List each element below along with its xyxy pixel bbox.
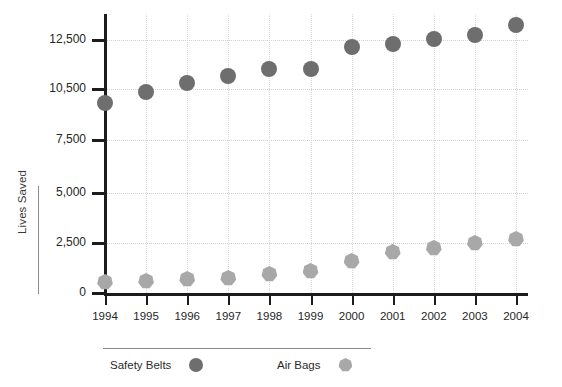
data-point-safety-belts-2004[interactable] (508, 17, 524, 33)
y-tick-mark (92, 192, 105, 195)
legend-item-safety-belts[interactable]: Safety Belts (110, 358, 203, 372)
y-tick-label: 7,500 (56, 132, 86, 146)
data-point-safety-belts-1997[interactable] (220, 68, 236, 84)
data-point-safety-belts-1994[interactable] (97, 95, 113, 111)
data-point-safety-belts-1998[interactable] (261, 61, 277, 77)
data-point-air-bags-1999[interactable] (303, 263, 319, 279)
gridline-x-1998 (269, 14, 270, 293)
gridline-x-2003 (475, 14, 476, 293)
data-point-safety-belts-2003[interactable] (467, 27, 483, 43)
x-tick-mark (434, 296, 436, 305)
gridline-y-10500 (107, 89, 528, 90)
gridline-x-1995 (146, 14, 147, 293)
x-tick-label-1998: 1998 (246, 310, 292, 322)
data-point-air-bags-2001[interactable] (385, 244, 401, 260)
x-tick-mark (105, 296, 107, 305)
x-tick-label-2000: 2000 (329, 310, 375, 322)
x-tick-label-1995: 1995 (123, 310, 169, 322)
data-point-air-bags-1994[interactable] (97, 274, 113, 290)
gridline-x-1997 (228, 14, 229, 293)
y-axis-line (104, 14, 107, 295)
data-point-air-bags-2004[interactable] (508, 231, 524, 247)
x-tick-label-1997: 1997 (205, 310, 251, 322)
x-tick-label-1996: 1996 (164, 310, 210, 322)
data-point-safety-belts-1999[interactable] (303, 61, 319, 77)
x-tick-mark (352, 296, 354, 305)
y-tick-mark (92, 88, 105, 91)
gridline-y-2500 (107, 243, 528, 244)
gridline-x-2000 (352, 14, 353, 293)
y-axis-title-rule (38, 186, 39, 294)
y-tick-mark (92, 292, 105, 295)
gridline-x-1996 (187, 14, 188, 293)
y-tick-label: 5,000 (56, 185, 86, 199)
data-point-air-bags-1995[interactable] (138, 273, 154, 289)
data-point-safety-belts-1996[interactable] (179, 75, 195, 91)
legend-label: Air Bags (277, 359, 320, 371)
y-tick-mark (92, 242, 105, 245)
x-tick-label-2004: 2004 (493, 310, 539, 322)
x-tick-mark (475, 296, 477, 305)
data-point-air-bags-1998[interactable] (261, 266, 277, 282)
data-point-air-bags-2000[interactable] (344, 253, 360, 269)
y-tick-mark (92, 39, 105, 42)
x-tick-label-1999: 1999 (288, 310, 334, 322)
x-tick-mark (146, 296, 148, 305)
x-tick-mark (516, 296, 518, 305)
circle-marker-icon (189, 358, 203, 372)
data-point-air-bags-1996[interactable] (179, 271, 195, 287)
heptagon-marker-icon (338, 358, 352, 372)
data-point-safety-belts-2001[interactable] (385, 36, 401, 52)
y-axis-title: Lives Saved (16, 142, 28, 262)
y-tick-label: 12,500 (49, 32, 86, 46)
gridline-y-7500 (107, 140, 528, 141)
legend-label: Safety Belts (110, 359, 171, 371)
x-tick-mark (187, 296, 189, 305)
legend-item-air-bags[interactable]: Air Bags (277, 358, 352, 372)
x-tick-mark (269, 296, 271, 305)
x-tick-mark (393, 296, 395, 305)
y-tick-mark (92, 139, 105, 142)
y-tick-label: 0 (79, 285, 86, 299)
data-point-air-bags-1997[interactable] (220, 270, 236, 286)
y-tick-label: 2,500 (56, 235, 86, 249)
gridline-y-5000 (107, 193, 528, 194)
data-point-safety-belts-2000[interactable] (344, 39, 360, 55)
x-tick-label-2002: 2002 (411, 310, 457, 322)
x-axis-line (104, 293, 528, 296)
legend-divider-right (273, 348, 371, 349)
data-point-safety-belts-2002[interactable] (426, 31, 442, 47)
x-tick-label-1994: 1994 (82, 310, 128, 322)
x-tick-label-2001: 2001 (370, 310, 416, 322)
gridline-x-1999 (311, 14, 312, 293)
data-point-air-bags-2003[interactable] (467, 235, 483, 251)
gridline-x-2004 (516, 14, 517, 293)
gridline-y-12500 (107, 40, 528, 41)
x-tick-label-2003: 2003 (452, 310, 498, 322)
y-tick-label: 10,500 (49, 81, 86, 95)
lives-saved-scatter-chart: Lives Saved 12,50010,5007,5005,0002,5000… (0, 0, 562, 387)
x-tick-mark (311, 296, 313, 305)
legend-divider-left (103, 348, 273, 349)
data-point-safety-belts-1995[interactable] (138, 84, 154, 100)
x-tick-mark (228, 296, 230, 305)
